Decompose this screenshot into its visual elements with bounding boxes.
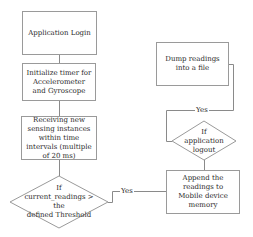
node-label-line3: defined Threshold <box>27 211 91 220</box>
edge-label-yes-logout: Yes <box>195 106 209 114</box>
node-application-login: Application Login <box>22 11 97 55</box>
node-label: Application Login <box>28 29 91 38</box>
node-receiving-instances: Receiving new sensing instances within t… <box>21 116 97 160</box>
node-label-line1: If <box>56 184 61 193</box>
node-label: If application logout <box>182 128 226 155</box>
edge-label-yes-threshold: Yes <box>120 187 134 195</box>
node-label: Receiving new sensing instances within t… <box>25 116 93 161</box>
node-initialize-timer: Initialize timer for Accelerometer and G… <box>22 63 96 101</box>
node-threshold-decision: If current_readings > the defined Thresh… <box>18 186 100 218</box>
node-label: Append the readings to Mobile device mem… <box>170 174 236 210</box>
node-append-readings: Append the readings to Mobile device mem… <box>166 170 240 214</box>
node-label-line2: current_readings > the <box>18 193 100 211</box>
node-logout-decision: If application logout <box>182 131 226 151</box>
node-dump-readings: Dump readings into a file <box>156 42 229 86</box>
node-label: Initialize timer for Accelerometer and G… <box>26 69 92 96</box>
node-label: Dump readings into a file <box>160 55 225 73</box>
